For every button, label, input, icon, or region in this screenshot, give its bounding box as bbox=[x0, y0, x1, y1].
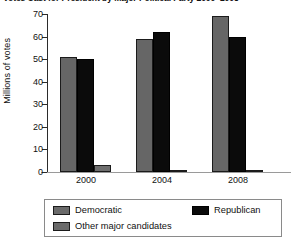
legend-swatch-other bbox=[53, 222, 70, 231]
x-label-2000: 2000 bbox=[56, 175, 116, 185]
chart-title: Votes Cast for President by Major Politi… bbox=[3, 0, 303, 3]
x-axis-line bbox=[41, 172, 291, 173]
legend-swatch-republican bbox=[192, 206, 209, 215]
y-axis-title: Millions of votes bbox=[2, 38, 12, 104]
bar-2004-democratic bbox=[136, 39, 153, 172]
legend-label-republican: Republican bbox=[214, 205, 261, 215]
bars-row bbox=[60, 14, 111, 172]
legend-item-democratic: Democratic bbox=[53, 205, 122, 215]
legend-label-other: Other major candidates bbox=[75, 221, 172, 231]
chart-legend: Democratic Republican Other major candid… bbox=[44, 199, 282, 237]
legend-item-other: Other major candidates bbox=[53, 221, 172, 231]
x-label-2004: 2004 bbox=[132, 175, 192, 185]
x-label-2008: 2008 bbox=[208, 175, 268, 185]
y-tick-label: 20 bbox=[33, 122, 43, 131]
legend-label-democratic: Democratic bbox=[75, 205, 122, 215]
bar-2000-republican bbox=[77, 59, 94, 172]
y-tick-label: 70 bbox=[33, 10, 43, 19]
bar-2004-republican bbox=[153, 32, 170, 172]
y-tick-label: 40 bbox=[33, 77, 43, 86]
bar-2000-other bbox=[94, 165, 111, 172]
y-tick-label: 60 bbox=[33, 32, 43, 41]
legend-swatch-democratic bbox=[53, 206, 70, 215]
plot-area: 70 60 50 40 30 20 10 0 2000 bbox=[47, 14, 285, 172]
bar-2008-republican bbox=[229, 37, 246, 172]
y-axis-line bbox=[47, 14, 48, 172]
y-tick-label: 10 bbox=[33, 145, 43, 154]
bar-2000-democratic bbox=[60, 57, 77, 172]
bar-2008-other bbox=[246, 170, 263, 172]
bar-2004-other bbox=[170, 170, 187, 172]
y-tick-label: 30 bbox=[33, 100, 43, 109]
bars-row bbox=[136, 14, 187, 172]
bar-2008-democratic bbox=[212, 16, 229, 172]
y-tick-label: 0 bbox=[38, 168, 43, 177]
bars-row bbox=[212, 14, 263, 172]
y-tick-label: 50 bbox=[33, 55, 43, 64]
legend-item-republican: Republican bbox=[192, 205, 261, 215]
